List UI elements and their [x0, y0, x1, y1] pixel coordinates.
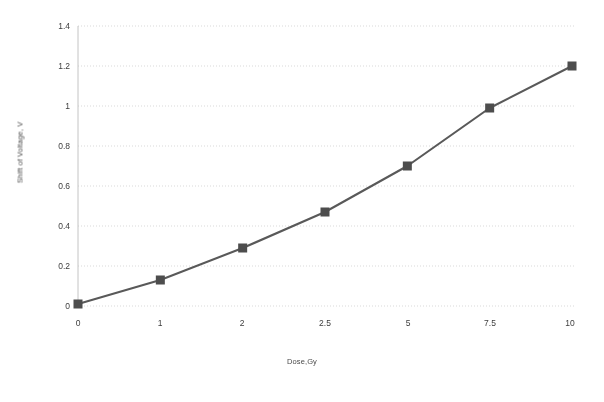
- data-markers: [74, 62, 577, 309]
- chart-figure: Shift of Voltage, V 1.4 1.2 1 0.8 0.6 0.…: [0, 0, 604, 402]
- data-point-marker: [321, 208, 330, 217]
- data-point-marker: [156, 276, 165, 285]
- data-point-marker: [568, 62, 577, 71]
- chart-plot: [0, 0, 604, 402]
- data-line: [78, 66, 572, 304]
- data-point-marker: [485, 104, 494, 113]
- data-point-marker: [74, 300, 83, 309]
- gridlines: [78, 26, 574, 306]
- data-point-marker: [403, 162, 412, 171]
- data-point-marker: [238, 244, 247, 253]
